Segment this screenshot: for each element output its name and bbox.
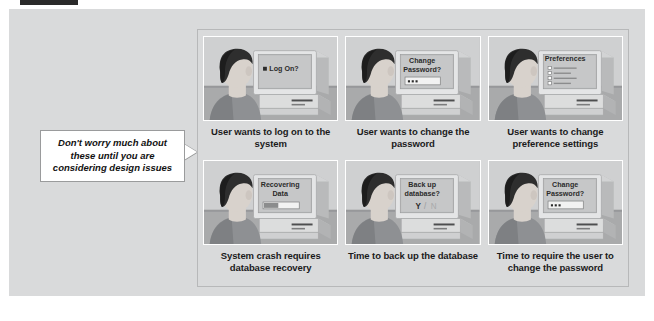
illustration-caption: User wants to change the password xyxy=(345,126,480,150)
illustration-image-3: Preferences xyxy=(488,36,623,121)
illustration-cell: Preferences Us xyxy=(488,36,623,158)
svg-text:Data: Data xyxy=(272,189,288,198)
illustration-cell: ChangePassword? Time to require the user xyxy=(488,160,623,282)
illustration-image-2: ChangePassword? xyxy=(345,36,480,121)
svg-text:Y: Y xyxy=(416,202,422,211)
illustration-caption: User wants to change preference settings xyxy=(488,126,623,150)
svg-text:Preferences: Preferences xyxy=(544,54,585,63)
illustration-cell: RecoveringData System crash requires dat… xyxy=(203,160,338,282)
callout-pointer xyxy=(184,144,197,160)
illustration-grid-panel: Log On? User wants to log on to the syst… xyxy=(197,29,629,287)
svg-text:Back up: Back up xyxy=(409,180,437,189)
illustration-cell: Log On? User wants to log on to the syst… xyxy=(203,36,338,158)
svg-text:Recovering: Recovering xyxy=(261,180,300,189)
svg-text:Log On?: Log On? xyxy=(269,64,298,73)
illustration-image-5: Back updatabase? Y / N xyxy=(345,160,480,245)
top-edge-artifact xyxy=(20,0,78,5)
svg-text:Password?: Password? xyxy=(546,189,584,198)
illustration-cell: Back updatabase? Y / N Time to back up t… xyxy=(345,160,480,282)
illustration-image-1: Log On? xyxy=(203,36,338,121)
svg-text:Password?: Password? xyxy=(404,65,442,74)
svg-text:database?: database? xyxy=(405,189,440,198)
illustration-caption: User wants to log on to the system xyxy=(203,126,338,150)
svg-text:Change: Change xyxy=(409,56,435,65)
figure-panel: Don't worry much about these until you a… xyxy=(9,9,645,296)
illustration-image-6: ChangePassword? xyxy=(488,160,623,245)
svg-text:N: N xyxy=(431,202,437,211)
callout-box: Don't worry much about these until you a… xyxy=(40,130,185,182)
svg-text:Change: Change xyxy=(552,180,578,189)
illustration-caption: System crash requires database recovery xyxy=(203,250,338,274)
callout-text: Don't worry much about these until you a… xyxy=(41,137,184,175)
illustration-image-4: RecoveringData xyxy=(203,160,338,245)
illustration-grid: Log On? User wants to log on to the syst… xyxy=(203,36,623,282)
illustration-caption: Time to back up the database xyxy=(348,250,478,262)
illustration-caption: Time to require the user to change the p… xyxy=(488,250,623,274)
illustration-cell: ChangePassword? User wants to change the xyxy=(345,36,480,158)
